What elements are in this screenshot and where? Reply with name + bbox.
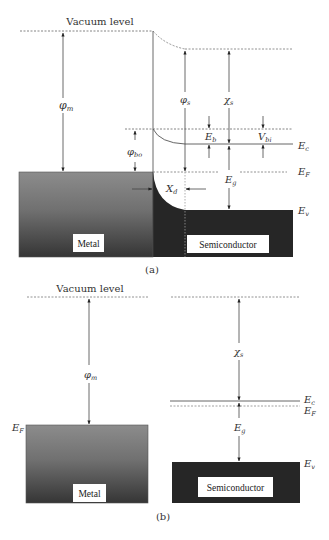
panel-b: Vacuum level Metal EF φm χs Eg Semicondu… (11, 283, 316, 522)
metal-label-b: Metal (78, 489, 101, 499)
panel-a-caption: (a) (145, 264, 159, 275)
semiconductor-label: Semiconductor (199, 240, 257, 250)
energy-band-diagram: Vacuum level Metal Semiconductor φm (0, 0, 329, 540)
semiconductor-label-b: Semiconductor (207, 483, 265, 493)
ef-metal-label-b: EF (11, 422, 24, 435)
vbi-label: Vbi (258, 131, 271, 144)
panel-a: Vacuum level Metal Semiconductor φm (19, 16, 310, 275)
semiconductor-vacuum-bending (153, 31, 185, 49)
vacuum-level-label: Vacuum level (65, 16, 133, 27)
eg-label: Eg (224, 174, 236, 187)
chi-s-label-b: χs (233, 346, 244, 359)
chi-s-label: χs (223, 94, 234, 107)
metal-label: Metal (77, 239, 100, 249)
phi-m-label: φm (59, 99, 74, 113)
ev-label-b: Ev (303, 458, 315, 471)
eg-label-b: Eg (233, 422, 245, 435)
phi-m-label-b: φm (84, 369, 97, 382)
ec-label: Ec (297, 140, 309, 153)
ef-label: EF (297, 166, 310, 179)
eb-label: Eb (204, 131, 216, 144)
conduction-band-bending (153, 129, 185, 144)
ev-label: Ev (297, 205, 309, 218)
xd-label: Xd (165, 183, 177, 196)
panel-b-caption: (b) (156, 511, 170, 522)
vacuum-level-label-b: Vacuum level (55, 283, 123, 294)
phi-s-label: φs (180, 94, 191, 107)
phi-bo-label: φbo (127, 146, 142, 159)
